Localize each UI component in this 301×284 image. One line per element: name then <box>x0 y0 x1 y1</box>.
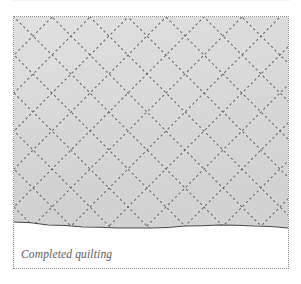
figure-frame: Completed quilting <box>13 16 289 269</box>
quilt-photo <box>14 17 288 238</box>
quilt-pattern-svg <box>14 17 288 238</box>
top-dotted-rule-remnant <box>13 0 289 3</box>
figure-caption-area: Completed quilting <box>14 238 288 268</box>
fabric-body <box>14 17 288 238</box>
figure-caption-text: Completed quilting <box>21 248 112 261</box>
